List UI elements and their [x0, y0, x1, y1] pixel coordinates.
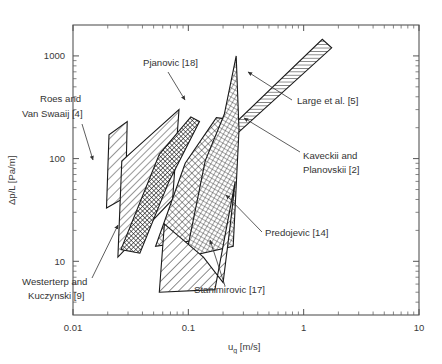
annotation-label: Westerterp and	[22, 276, 87, 287]
annotation-label: Kaveckii and	[303, 150, 357, 161]
figure-container: Roes and Van Swaaij [4]Westerterp and Ku…	[0, 0, 442, 364]
annotation-label: Large et al. [5]	[297, 95, 358, 106]
x-tick-label: 1	[301, 322, 306, 333]
annotation-label: Stanimirovic [17]	[194, 284, 265, 295]
x-tick-label: 0.1	[182, 322, 195, 333]
x-tick-label: 0.01	[64, 322, 83, 333]
annotation-label: Pjanovic [18]	[143, 57, 198, 68]
annotation-label: Predojevic [14]	[265, 227, 328, 238]
annotation-label: Planovskii [2]	[303, 164, 360, 175]
y-tick-label: 10	[54, 256, 65, 267]
annotation-label: Roes and	[40, 93, 81, 104]
x-tick-label: 10	[414, 322, 425, 333]
y-axis-title: Δp/L [Pa/m]	[6, 156, 17, 205]
caption-strip	[0, 354, 442, 364]
annotation-label: Kuczynski [9]	[28, 290, 85, 301]
annotation-label: Van Swaaij [4]	[22, 108, 83, 119]
svg-text:ug [m/s]: ug [m/s]	[228, 341, 260, 355]
svg-text:Δp/L [Pa/m]: Δp/L [Pa/m]	[6, 156, 17, 205]
x-axis-title: ug [m/s]	[228, 341, 260, 355]
log-log-chart: Roes and Van Swaaij [4]Westerterp and Ku…	[0, 0, 442, 364]
y-tick-label: 100	[49, 153, 65, 164]
y-tick-label: 1000	[44, 50, 65, 61]
